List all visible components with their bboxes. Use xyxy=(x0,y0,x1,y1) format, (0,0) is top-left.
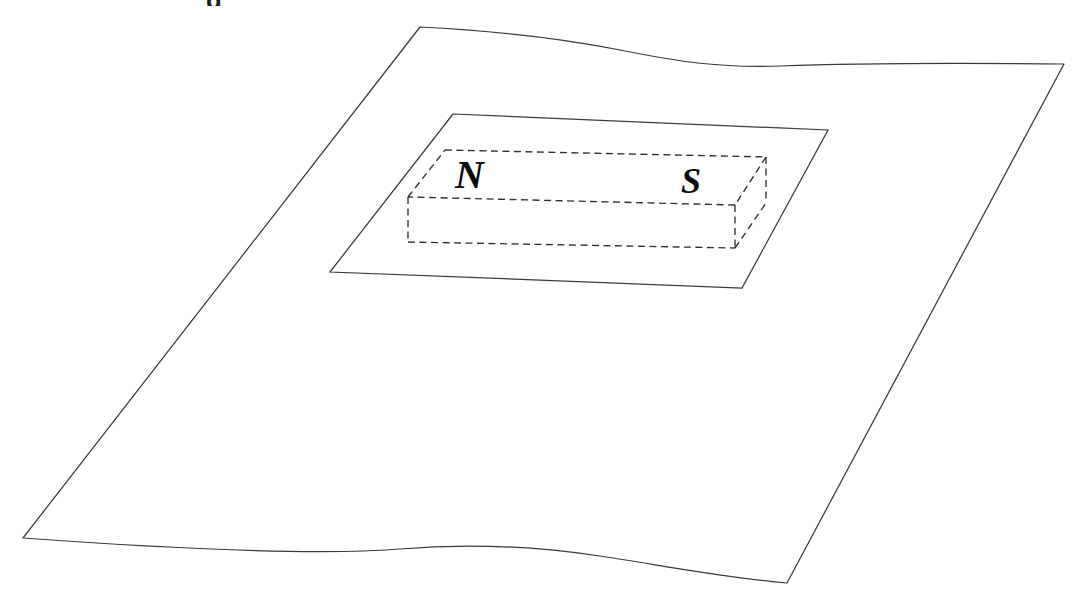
north-pole-label: N xyxy=(454,152,486,197)
magnet-front-face-fill xyxy=(408,197,735,248)
south-pole-label: S xyxy=(681,161,701,201)
figure-root: g N S xyxy=(0,0,1078,592)
diagram-canvas: N S xyxy=(0,0,1078,592)
sheet-surface xyxy=(23,27,1064,583)
